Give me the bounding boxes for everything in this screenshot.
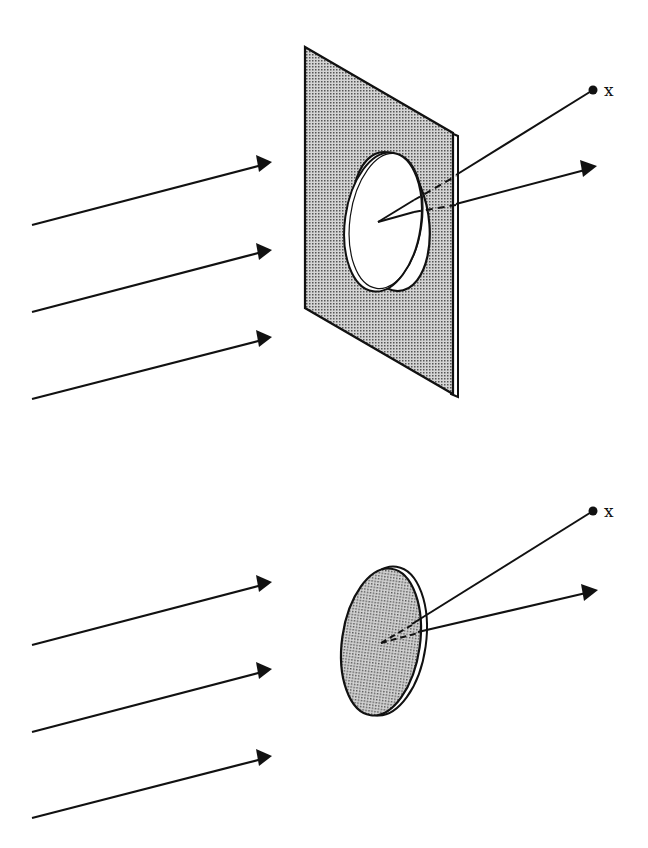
point-label-x-bottom: x — [604, 501, 614, 521]
bottom-panel: x — [32, 501, 614, 818]
arrowheads-top — [256, 155, 272, 347]
incident-arrow-1 — [32, 165, 262, 225]
point-label-x: x — [604, 80, 614, 100]
incident-arrow-3 — [32, 340, 262, 399]
incident-arrow-2 — [32, 252, 262, 312]
observation-point — [589, 86, 598, 95]
observation-point-bottom — [589, 507, 598, 516]
diffraction-diagram: x x — [0, 0, 648, 848]
transmitted-arrowhead-bottom — [581, 584, 598, 601]
top-panel: x — [32, 47, 614, 399]
incident-wave-arrows — [32, 165, 262, 399]
incident-wave-arrows-bottom — [32, 585, 262, 818]
arrowheads-bottom — [256, 575, 272, 766]
transmitted-arrowhead — [580, 160, 597, 177]
